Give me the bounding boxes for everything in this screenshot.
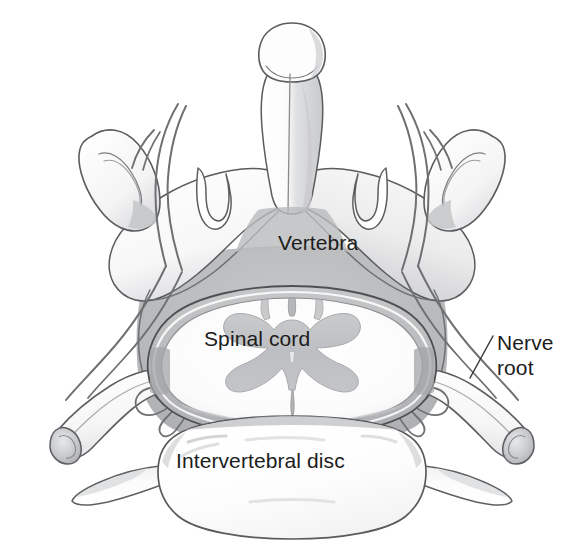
- label-spinal-cord: Spinal cord: [204, 326, 310, 351]
- intervertebral-disc-group: [158, 416, 426, 539]
- dorsal-median-sulcus: [288, 298, 295, 316]
- dura-left-shade: [150, 347, 170, 395]
- anterior-median-fissure: [291, 390, 294, 416]
- dura-right-shade: [414, 347, 434, 395]
- spinal-cord-group: [148, 286, 437, 436]
- label-intervertebral-disc: Intervertebral disc: [176, 448, 345, 473]
- transverse-process-left: [72, 466, 172, 505]
- label-vertebra: Vertebra: [278, 230, 358, 255]
- label-nerve-root: Nerve root: [497, 330, 554, 380]
- intervertebral-disc: [158, 416, 426, 539]
- anatomical-illustration: Vertebra Spinal cord Intervertebral disc…: [0, 0, 584, 554]
- nerve-root-leader-line: [470, 336, 493, 378]
- leader-line-stroke: [470, 336, 493, 378]
- transverse-process-right: [412, 466, 512, 505]
